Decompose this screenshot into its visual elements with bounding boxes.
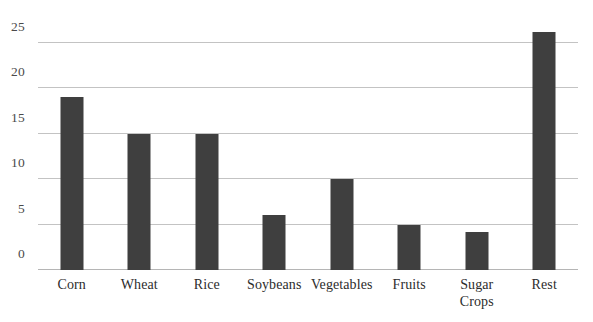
category-label-vegetables: Vegetables	[308, 276, 376, 293]
category-label-line: Fruits	[376, 276, 444, 293]
bar-slot	[38, 20, 106, 270]
bars-group	[38, 20, 578, 270]
bar-slot	[173, 20, 241, 270]
category-label-line: Vegetables	[308, 276, 376, 293]
category-label-line: Sugar	[443, 276, 511, 293]
category-label-line: Crops	[443, 293, 511, 310]
category-label-line: Corn	[38, 276, 106, 293]
bar-slot	[376, 20, 444, 270]
category-label-line: Wheat	[106, 276, 174, 293]
bar-slot	[106, 20, 174, 270]
category-label-rice: Rice	[173, 276, 241, 293]
bar-slot	[308, 20, 376, 270]
plot-area: 0510152025	[38, 20, 578, 270]
x-axis-category-labels: CornWheatRiceSoybeansVegetablesFruitsSug…	[38, 276, 578, 322]
category-label-line: Rest	[511, 276, 579, 293]
bar-corn[interactable]	[60, 97, 83, 270]
category-label-soybeans: Soybeans	[241, 276, 309, 293]
bar-wheat[interactable]	[128, 134, 151, 270]
y-tick-label-25: 25	[0, 19, 25, 35]
bar-rest[interactable]	[533, 32, 556, 270]
bar-slot	[443, 20, 511, 270]
category-label-sugar-crops: SugarCrops	[443, 276, 511, 310]
y-tick-label-10: 10	[0, 155, 25, 171]
category-label-wheat: Wheat	[106, 276, 174, 293]
y-tick-label-0: 0	[0, 246, 25, 262]
category-label-corn: Corn	[38, 276, 106, 293]
bar-soybeans[interactable]	[263, 215, 286, 270]
bar-rice[interactable]	[195, 134, 218, 270]
bar-slot	[241, 20, 309, 270]
bar-sugar-crops[interactable]	[465, 232, 488, 270]
category-label-line: Soybeans	[241, 276, 309, 293]
y-tick-label-15: 15	[0, 110, 25, 126]
y-tick-label-20: 20	[0, 64, 25, 80]
bar-chart-figure: 0510152025 CornWheatRiceSoybeansVegetabl…	[0, 0, 593, 322]
y-tick-label-5: 5	[0, 201, 25, 217]
bar-slot	[511, 20, 579, 270]
bar-vegetables[interactable]	[330, 179, 353, 270]
category-label-rest: Rest	[511, 276, 579, 293]
category-label-line: Rice	[173, 276, 241, 293]
bar-fruits[interactable]	[398, 225, 421, 270]
category-label-fruits: Fruits	[376, 276, 444, 293]
